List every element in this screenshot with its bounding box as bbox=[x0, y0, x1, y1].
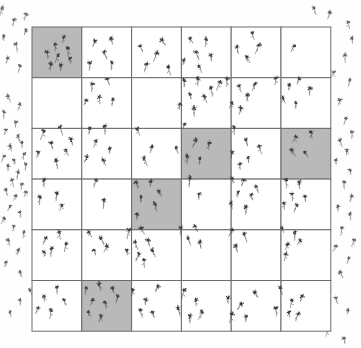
quadrat-cell bbox=[281, 281, 331, 332]
plant-symbol-icon bbox=[342, 180, 346, 190]
plant-symbol-icon bbox=[21, 152, 26, 160]
quadrat-cell bbox=[231, 281, 281, 332]
plant-symbol-icon bbox=[338, 269, 343, 278]
plant-symbol-icon bbox=[1, 216, 6, 224]
quadrat-cell bbox=[82, 78, 132, 129]
plant-symbol-icon bbox=[348, 168, 353, 175]
plant-symbol-icon bbox=[14, 120, 19, 128]
quadrat-sampling-figure bbox=[0, 0, 361, 348]
plant-symbol-icon bbox=[14, 42, 19, 53]
plant-symbol-icon bbox=[347, 212, 352, 221]
plant-symbol-icon bbox=[350, 130, 355, 139]
plant-symbol-icon bbox=[347, 256, 351, 264]
quadrat-cell bbox=[231, 230, 281, 281]
plant-symbol-icon bbox=[10, 178, 15, 188]
plant-symbol-icon bbox=[8, 204, 12, 211]
quadrat-cell bbox=[132, 128, 182, 179]
plant-symbol-icon bbox=[350, 35, 354, 43]
quadrat-cell bbox=[82, 230, 132, 281]
quadrat-cell bbox=[32, 78, 82, 129]
quadrat-cell bbox=[231, 128, 281, 179]
plant-symbol-icon bbox=[349, 194, 355, 202]
plant-symbol-icon bbox=[4, 128, 8, 135]
plant-symbol-icon bbox=[346, 308, 350, 315]
plant-symbol-icon bbox=[24, 28, 29, 36]
plant-symbol-icon bbox=[0, 5, 5, 16]
plant-symbol-icon bbox=[24, 190, 29, 197]
plant-symbol-icon bbox=[7, 143, 12, 151]
quadrat-cell bbox=[181, 281, 231, 332]
plant-symbol-icon bbox=[13, 194, 18, 201]
plant-symbol-icon bbox=[12, 224, 16, 231]
plant-symbol-icon bbox=[20, 140, 24, 148]
plant-symbol-icon bbox=[328, 10, 333, 20]
plant-symbol-icon bbox=[345, 148, 350, 156]
quadrat-cell-selected bbox=[181, 128, 231, 179]
plant-symbol-icon bbox=[16, 134, 20, 143]
plant-symbol-icon bbox=[331, 70, 336, 77]
quadrat-cell bbox=[281, 27, 331, 78]
plant-symbol-icon bbox=[1, 154, 6, 162]
plant-symbol-icon bbox=[334, 158, 338, 165]
plant-symbol-icon bbox=[5, 93, 10, 102]
plant-symbol-icon bbox=[337, 98, 343, 106]
plant-symbol-icon bbox=[352, 237, 357, 247]
plant-symbol-icon bbox=[4, 188, 9, 196]
plant-symbol-icon bbox=[348, 78, 351, 87]
quadrat-cell bbox=[181, 78, 231, 129]
quadrat-cell-selected bbox=[32, 27, 82, 78]
plant-symbol-icon bbox=[12, 158, 16, 165]
plant-symbol-icon bbox=[343, 52, 348, 63]
plant-symbol-icon bbox=[312, 6, 317, 15]
plant-symbol-icon bbox=[16, 248, 21, 256]
plant-symbol-icon bbox=[345, 20, 350, 29]
plant-symbol-icon bbox=[24, 162, 28, 171]
plant-symbol-icon bbox=[4, 260, 9, 267]
quadrat-cell bbox=[82, 179, 132, 230]
plant-symbol-icon bbox=[2, 110, 6, 119]
plant-symbol-icon bbox=[18, 64, 22, 73]
plant-symbol-icon bbox=[22, 230, 26, 238]
plant-symbol-icon bbox=[342, 336, 347, 345]
plant-symbol-icon bbox=[6, 55, 11, 63]
plant-symbol-icon bbox=[15, 169, 20, 179]
plant-symbol-icon bbox=[338, 138, 343, 148]
plant-symbol-icon bbox=[23, 12, 29, 21]
plant-symbol-icon bbox=[8, 310, 11, 317]
quadrat-diagram-canvas bbox=[0, 0, 361, 348]
quadrat-cell bbox=[132, 78, 182, 129]
quadrat-cell bbox=[32, 230, 82, 281]
quadrat-cell bbox=[181, 27, 231, 78]
plant-symbol-icon bbox=[344, 116, 348, 125]
plant-symbol-icon bbox=[2, 34, 6, 41]
plant-symbol-icon bbox=[12, 18, 17, 27]
plant-symbol-icon bbox=[333, 244, 338, 252]
quadrat-cell bbox=[231, 27, 281, 78]
quadrat-cell-selected bbox=[132, 179, 182, 230]
plant-symbol-icon bbox=[18, 298, 22, 306]
plant-symbol-icon bbox=[336, 204, 341, 212]
plant-symbol-icon bbox=[5, 238, 10, 246]
plant-symbol-icon bbox=[20, 182, 25, 190]
plant-symbol-icon bbox=[334, 295, 338, 303]
plant-symbol-icon bbox=[18, 210, 22, 218]
plant-symbol-icon bbox=[18, 102, 22, 111]
plant-symbol-icon bbox=[6, 164, 10, 172]
quadrat-cell bbox=[281, 179, 331, 230]
quadrat-cell bbox=[82, 128, 132, 179]
plant-symbol-icon bbox=[18, 270, 23, 278]
plant-symbol-icon bbox=[340, 226, 345, 236]
